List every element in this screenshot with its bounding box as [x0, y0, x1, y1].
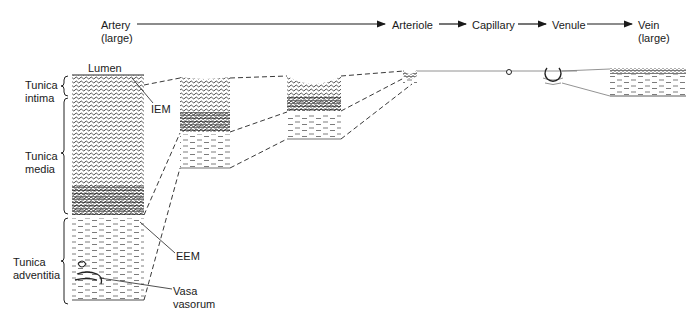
small-artery-section: [287, 76, 341, 139]
medium-artery-section: [180, 77, 230, 168]
vessel-diagram: [0, 0, 698, 323]
vein-section: [610, 68, 686, 96]
capillary-section: [417, 70, 577, 75]
layer-braces: [61, 76, 68, 304]
arteriole-section: [403, 70, 417, 84]
large-artery-section: [72, 75, 144, 300]
venule-section: [543, 68, 563, 85]
